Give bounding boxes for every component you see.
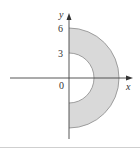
origin-label: 0 — [59, 81, 64, 91]
tick-label-6: 6 — [58, 24, 63, 34]
diagram-canvas — [0, 0, 140, 151]
x-axis-arrow-icon — [126, 76, 133, 81]
bottom-divider — [0, 147, 140, 148]
y-axis-label: y — [59, 10, 63, 20]
polar-region-diagram: y 6 3 0 x — [0, 0, 140, 151]
y-axis-arrow-icon — [67, 13, 72, 20]
x-axis-label: x — [126, 82, 130, 92]
tick-label-3: 3 — [58, 49, 63, 59]
